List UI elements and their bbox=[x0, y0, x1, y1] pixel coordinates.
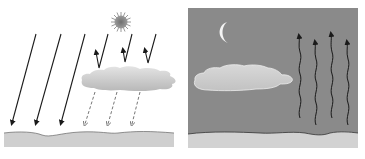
cloud-icon bbox=[82, 66, 176, 91]
arrow-icon bbox=[36, 34, 61, 123]
arrow-icon bbox=[61, 34, 85, 123]
diffuse-radiation-arrows bbox=[85, 92, 140, 124]
sun-icon bbox=[111, 12, 131, 32]
diagram-canvas bbox=[0, 0, 365, 159]
ground bbox=[4, 132, 174, 148]
arrow-icon bbox=[12, 34, 36, 123]
dashed-arrow-icon bbox=[108, 92, 117, 124]
dashed-arrow-icon bbox=[85, 92, 95, 124]
reflect-arrow-icon bbox=[123, 34, 132, 62]
reflected-radiation-arrows bbox=[96, 34, 156, 68]
night-panel bbox=[188, 8, 358, 148]
ground bbox=[188, 132, 358, 148]
incoming-radiation-arrows bbox=[12, 34, 85, 123]
dashed-arrow-icon bbox=[132, 92, 140, 124]
reflect-arrow-icon bbox=[145, 34, 156, 63]
day-panel bbox=[4, 12, 176, 147]
radiation-diagram bbox=[0, 0, 365, 159]
reflect-arrow-icon bbox=[96, 34, 108, 68]
